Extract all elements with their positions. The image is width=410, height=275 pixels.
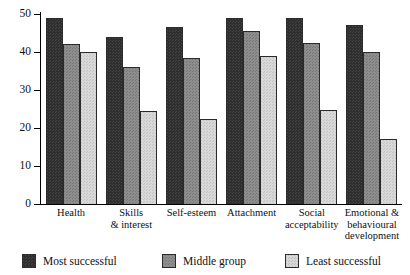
chart-legend: Most successful Middle group Least succe… bbox=[22, 252, 397, 270]
bar-group bbox=[222, 14, 282, 204]
bar bbox=[303, 43, 320, 205]
bar bbox=[380, 139, 397, 204]
bar-group bbox=[101, 14, 161, 204]
bar bbox=[260, 56, 277, 204]
y-tick-label: 0 bbox=[25, 198, 31, 210]
bar bbox=[166, 27, 183, 204]
bar bbox=[346, 25, 363, 204]
legend-label: Least successful bbox=[306, 255, 381, 267]
grouped-bar-chart: 50 40 30 20 10 0 HealthSkills& interestS… bbox=[0, 0, 410, 275]
bar-group bbox=[342, 14, 402, 204]
category-label: Skills& interest bbox=[101, 207, 161, 249]
bar-group bbox=[282, 14, 342, 204]
y-tick-mark bbox=[34, 166, 40, 167]
y-tick-mark bbox=[34, 52, 40, 53]
y-tick-label: 30 bbox=[20, 84, 32, 96]
bar bbox=[183, 58, 200, 204]
bar bbox=[363, 52, 380, 204]
bar-groups bbox=[41, 14, 402, 204]
y-tick-label: 20 bbox=[20, 122, 32, 134]
bar bbox=[243, 31, 260, 204]
category-label: Self-esteem bbox=[161, 207, 221, 249]
legend-swatch-middle-group bbox=[162, 254, 176, 268]
y-tick-label: 50 bbox=[20, 8, 32, 20]
legend-swatch-least-successful bbox=[285, 254, 299, 268]
y-tick-label: 40 bbox=[20, 46, 32, 58]
x-axis-line bbox=[40, 204, 402, 205]
bar bbox=[200, 119, 217, 205]
category-label: Emotional &behaviouraldevelopment bbox=[342, 207, 402, 249]
legend-label: Middle group bbox=[183, 255, 246, 267]
bar bbox=[140, 111, 157, 204]
bar bbox=[320, 110, 337, 204]
bar bbox=[286, 18, 303, 204]
bar bbox=[80, 52, 97, 204]
y-tick-label: 10 bbox=[20, 160, 32, 172]
bar-group bbox=[161, 14, 221, 204]
y-tick-mark bbox=[34, 90, 40, 91]
category-label: Attachment bbox=[222, 207, 282, 249]
bar bbox=[46, 18, 63, 204]
x-axis-category-labels: HealthSkills& interestSelf-esteemAttachm… bbox=[41, 207, 402, 249]
bar bbox=[226, 18, 243, 204]
bar bbox=[123, 67, 140, 204]
bar bbox=[106, 37, 123, 204]
bar-group bbox=[41, 14, 101, 204]
legend-item: Middle group bbox=[162, 254, 285, 268]
legend-swatch-most-successful bbox=[22, 254, 36, 268]
legend-item: Most successful bbox=[22, 254, 162, 268]
category-label: Health bbox=[41, 207, 101, 249]
y-tick-mark bbox=[34, 14, 40, 15]
y-tick-mark bbox=[34, 128, 40, 129]
y-axis-labels: 50 40 30 20 10 0 bbox=[0, 0, 31, 275]
legend-label: Most successful bbox=[43, 255, 117, 267]
bar bbox=[63, 44, 80, 204]
category-label: Socialacceptability bbox=[282, 207, 342, 249]
legend-item: Least successful bbox=[285, 254, 381, 268]
y-tick-mark bbox=[34, 204, 40, 205]
